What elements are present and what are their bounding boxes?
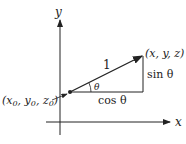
direction-diagram: y x θ 1 cos θ sin θ (x, y, z) (x0, y0, z…	[0, 0, 186, 144]
angle-arc	[89, 83, 91, 92]
start-point-label: (x0, y0, z0)	[2, 94, 58, 108]
start-point	[68, 90, 72, 94]
hypotenuse-label: 1	[103, 58, 111, 72]
x-axis-label: x	[175, 115, 182, 129]
end-point-label: (x, y, z)	[145, 47, 184, 60]
angle-label: θ	[94, 82, 100, 92]
cos-label: cos θ	[98, 94, 127, 107]
y-axis-label: y	[54, 5, 62, 19]
sin-label: sin θ	[147, 68, 174, 81]
